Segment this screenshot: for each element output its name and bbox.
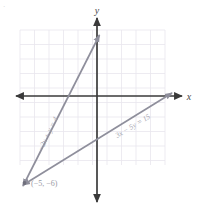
x-axis-label: x [186,91,192,102]
intersection-point-marker [23,181,27,185]
graph-figure: · [0,0,202,210]
line1-equation-label: −2x + y = 4 [36,115,60,152]
y-axis-label: y [94,5,100,16]
coordinate-plane-svg: x y (−5, −6) −2x + y = 4 3x − 5y = 15 [0,0,202,210]
intersection-point-label: (−5, −6) [31,179,58,188]
